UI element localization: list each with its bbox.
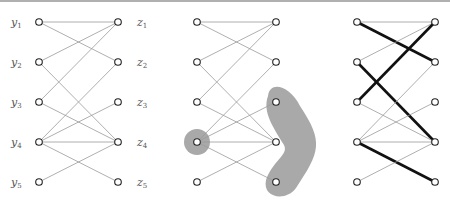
vertex-z2 xyxy=(273,59,280,66)
vertex-z1 xyxy=(115,19,122,26)
vertex-y3 xyxy=(194,99,201,106)
vertex-y2 xyxy=(36,59,43,66)
label-z2: z2 xyxy=(136,56,147,70)
vertex-y5 xyxy=(354,179,361,186)
vertex-z2 xyxy=(115,59,122,66)
vertex-z4 xyxy=(432,139,439,146)
vertex-z5 xyxy=(273,179,280,186)
label-y4: y4 xyxy=(10,136,22,150)
bipartite-graph-figure: y1y2y3y4y5z1z2z3z4z5 xyxy=(0,0,450,202)
vertex-z3 xyxy=(115,99,122,106)
vertex-z1 xyxy=(432,19,439,26)
vertex-y4 xyxy=(36,139,43,146)
edge xyxy=(39,22,118,102)
vertex-y2 xyxy=(354,59,361,66)
vertex-y4 xyxy=(194,139,201,146)
label-y3: y3 xyxy=(10,96,22,110)
edge xyxy=(197,22,276,102)
label-y2: y2 xyxy=(10,56,22,70)
panel-1-graph xyxy=(36,19,122,186)
label-z5: z5 xyxy=(136,176,147,190)
vertex-z5 xyxy=(432,179,439,186)
vertex-z1 xyxy=(273,19,280,26)
label-z1: z1 xyxy=(136,16,147,30)
vertex-y1 xyxy=(36,19,43,26)
vertex-z4 xyxy=(273,139,280,146)
vertex-y3 xyxy=(354,99,361,106)
vertex-y4 xyxy=(354,139,361,146)
label-y5: y5 xyxy=(10,176,22,190)
matching-edge xyxy=(357,22,435,102)
vertex-y5 xyxy=(36,179,43,186)
label-z4: z4 xyxy=(136,136,148,150)
vertex-z3 xyxy=(273,99,280,106)
panel-2-graph-with-neighborhood xyxy=(184,19,316,197)
vertex-y1 xyxy=(194,19,201,26)
label-z3: z3 xyxy=(136,96,147,110)
vertex-z2 xyxy=(432,59,439,66)
panel-3-graph-with-matching xyxy=(354,19,439,186)
vertex-y3 xyxy=(36,99,43,106)
label-y1: y1 xyxy=(10,16,22,30)
vertex-z5 xyxy=(115,179,122,186)
vertex-y5 xyxy=(194,179,201,186)
vertex-z4 xyxy=(115,139,122,146)
vertex-y1 xyxy=(354,19,361,26)
vertex-z3 xyxy=(432,99,439,106)
vertex-y2 xyxy=(194,59,201,66)
